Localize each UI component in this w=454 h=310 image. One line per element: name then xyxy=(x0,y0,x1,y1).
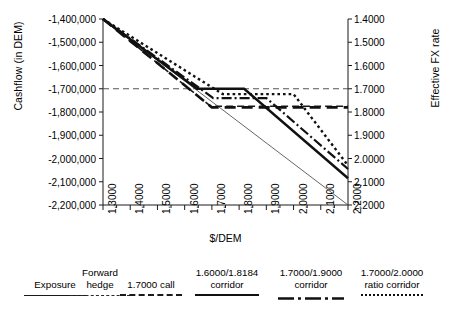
chart-legend: ExposureForwardhedge1.7000 call1.6000/1.… xyxy=(0,256,454,310)
legend-item: 1.6000/1.8184corridor xyxy=(181,256,273,300)
legend-swatch-solid-thick xyxy=(195,294,259,300)
legend-swatch-dash-large xyxy=(120,294,182,300)
series-line xyxy=(103,19,348,165)
legend-label: ratio corridor xyxy=(344,279,440,291)
legend-swatch-dash-dot xyxy=(278,297,344,300)
legend-label: 1.7000 call xyxy=(111,279,191,291)
legend-item: 1.7000 call xyxy=(111,256,191,300)
legend-label: 1.6000/1.8184 xyxy=(181,267,273,279)
legend-item: 1.7000/2.0000ratio corridor xyxy=(344,256,440,300)
series-line xyxy=(103,19,348,107)
legend-label: corridor xyxy=(181,279,273,291)
legend-swatch-dotted xyxy=(361,294,423,300)
legend-label: 1.7000/2.0000 xyxy=(344,267,440,279)
series-line xyxy=(103,19,348,106)
chart-figure: Cashflow (in DEM) Effective FX rate $/DE… xyxy=(0,0,454,310)
